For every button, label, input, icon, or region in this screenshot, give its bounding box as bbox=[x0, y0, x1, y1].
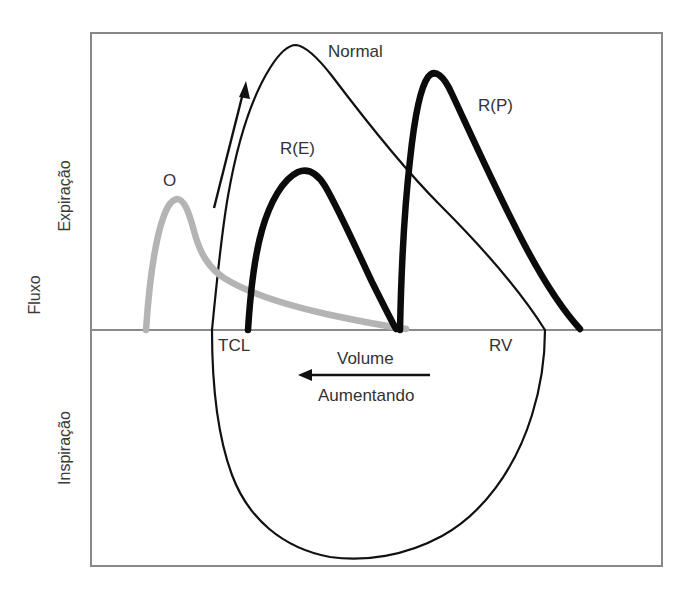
annotation-volume: Volume bbox=[337, 349, 394, 368]
label-restrictive-parenchymal: R(P) bbox=[478, 96, 513, 115]
marker-label-rv: RV bbox=[489, 336, 513, 355]
annotation-aumentando: Aumentando bbox=[318, 386, 414, 405]
effort-direction-arrow bbox=[214, 81, 250, 208]
label-obstructive: O bbox=[163, 171, 176, 190]
y-axis-label-fluxo: Fluxo bbox=[26, 275, 43, 314]
y-axis-label-inspiracao: Inspiração bbox=[56, 411, 73, 485]
label-normal: Normal bbox=[328, 42, 383, 61]
y-axis-label-expiracao: Expiração bbox=[56, 160, 73, 231]
marker-label-tcl: TCL bbox=[218, 336, 250, 355]
volume-direction-arrow bbox=[298, 369, 430, 381]
curve-restrictive-extraparenchymal bbox=[248, 171, 396, 330]
label-restrictive-extra: R(E) bbox=[280, 139, 315, 158]
flow-volume-loop-chart: Fluxo Expiração Inspiração Normal O R(E)… bbox=[0, 0, 693, 594]
plot-frame bbox=[91, 33, 662, 566]
